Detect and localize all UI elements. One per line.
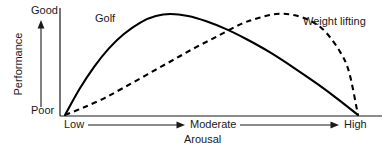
y-axis-tick-good: Good (31, 5, 58, 16)
series-line-weight-lifting (65, 14, 358, 115)
x-axis-tick-high: High (344, 119, 367, 130)
series-label-weight-lifting: Weight lifting (303, 16, 366, 27)
series-label-golf: Golf (95, 13, 115, 24)
y-axis-arrow-icon (38, 20, 45, 107)
x-axis-arrow-low-moderate-icon (88, 122, 185, 129)
x-axis-tick-low: Low (64, 119, 84, 130)
y-axis-title: Performance (12, 29, 24, 99)
y-axis-tick-poor: Poor (31, 105, 54, 116)
series-line-golf (65, 14, 358, 115)
x-axis-tick-moderate: Moderate (190, 119, 236, 130)
yerkes-dodson-chart: Good Poor Performance Low Moderate High … (0, 0, 389, 151)
x-axis-title: Arousal (184, 134, 221, 145)
x-axis-arrow-moderate-high-icon (240, 122, 339, 129)
